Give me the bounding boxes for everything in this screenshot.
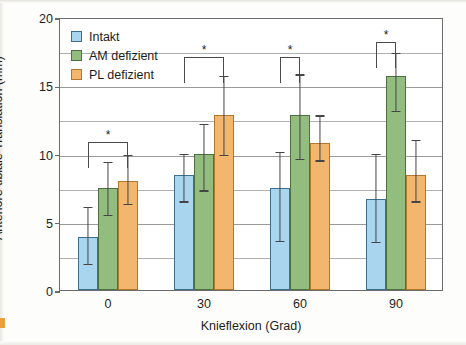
error-bar-cap-upper — [412, 140, 421, 141]
legend-item-pl-defizient: PL defizient — [71, 65, 158, 84]
figure-container: 05101520 **** 0306090 Anteriore tibiale … — [0, 0, 466, 345]
x-tick-label-30: 30 — [197, 297, 211, 311]
gridline-minor — [60, 121, 442, 122]
error-bar-cap-lower — [392, 111, 401, 112]
page-edge-bottom — [0, 341, 466, 345]
legend-label: PL defizient — [89, 68, 154, 82]
error-bar-line — [183, 154, 184, 202]
y-tick-mark — [55, 155, 60, 156]
y-tick-label: 5 — [46, 217, 53, 231]
y-tick-mark — [55, 291, 60, 292]
error-bar-cap-lower — [296, 159, 305, 160]
error-bar-cap-lower — [104, 215, 113, 216]
legend-swatch-icon — [71, 31, 82, 42]
gridline-major — [60, 87, 442, 88]
significance-star: * — [106, 129, 111, 141]
error-bar-cap-lower — [372, 242, 381, 243]
legend-label: AM defizient — [89, 49, 158, 63]
y-tick-label: 15 — [39, 80, 53, 94]
bar-60-pl-defizient — [310, 143, 330, 290]
error-bar-line — [279, 153, 280, 242]
error-bar-line — [107, 162, 108, 215]
legend-swatch-icon — [71, 50, 82, 61]
significance-bracket — [184, 57, 224, 83]
significance-bracket — [88, 142, 128, 168]
significance-star: * — [384, 29, 389, 41]
x-axis-title: Knieflexion (Grad) — [60, 319, 442, 333]
error-bar-line — [223, 76, 224, 155]
significance-star: * — [288, 44, 293, 56]
error-bar-line — [319, 116, 320, 161]
error-bar-cap-lower — [316, 160, 325, 161]
significance-bracket — [376, 42, 396, 68]
x-tick-label-60: 60 — [293, 297, 307, 311]
error-bar-cap-lower — [180, 201, 189, 202]
significance-star: * — [202, 44, 207, 56]
y-tick-mark — [55, 18, 60, 19]
y-tick-label: 20 — [39, 12, 53, 26]
page-edge-top — [0, 0, 466, 3]
error-bar-cap-upper — [276, 152, 285, 153]
error-bar-cap-lower — [220, 155, 229, 156]
error-bar-cap-lower — [124, 204, 133, 205]
error-bar-cap-upper — [200, 124, 209, 125]
y-tick-mark — [55, 87, 60, 88]
legend-item-am-defizient: AM defizient — [71, 46, 158, 65]
error-bar-cap-lower — [200, 190, 209, 191]
error-bar-cap-upper — [316, 115, 325, 116]
y-tick-label: 0 — [46, 285, 53, 299]
error-bar-line — [415, 140, 416, 201]
plot-frame: 05101520 **** 0306090 Anteriore tibiale … — [59, 18, 443, 291]
error-bar-line — [375, 154, 376, 243]
significance-bracket — [280, 57, 300, 83]
legend-label: Intakt — [89, 30, 120, 44]
y-tick-mark — [55, 223, 60, 224]
error-bar-cap-lower — [412, 201, 421, 202]
error-bar-cap-upper — [372, 154, 381, 155]
y-axis-title: Anteriore tibiale Translation (mm) — [0, 0, 5, 298]
error-bar-cap-upper — [180, 154, 189, 155]
page-accent-mark — [0, 318, 5, 328]
x-tick-label-0: 0 — [105, 297, 112, 311]
legend-swatch-icon — [71, 69, 82, 80]
error-bar-cap-lower — [84, 264, 93, 265]
error-bar-cap-lower — [276, 241, 285, 242]
error-bar-cap-upper — [84, 207, 93, 208]
error-bar-line — [299, 75, 300, 160]
legend-item-intakt: Intakt — [71, 27, 158, 46]
x-tick-label-90: 90 — [389, 297, 403, 311]
error-bar-line — [203, 124, 204, 191]
y-tick-label: 10 — [39, 149, 53, 163]
error-bar-line — [87, 207, 88, 264]
chart-legend: IntaktAM defizientPL defizient — [71, 27, 158, 84]
